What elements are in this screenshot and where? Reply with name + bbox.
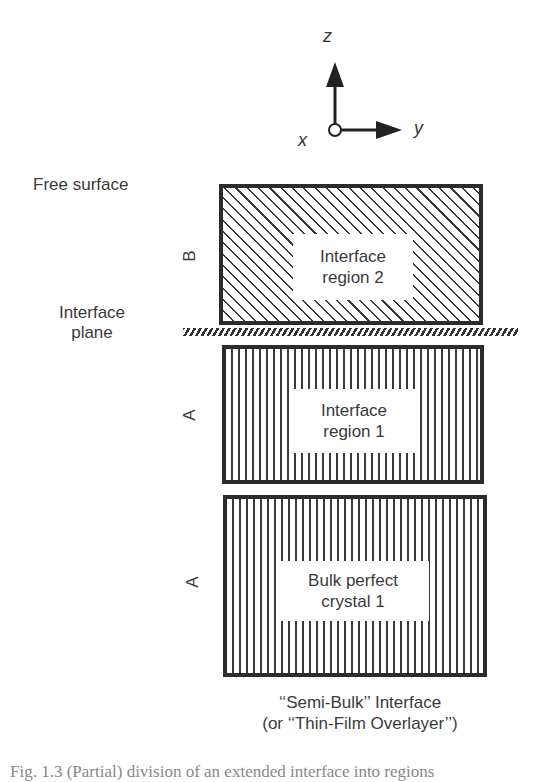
caption-line1: ‘‘Semi-Bulk’’ Interface [230, 692, 490, 713]
axes-arrows-icon [300, 55, 420, 145]
interface-region-1-label: Interface region 1 [293, 389, 415, 453]
x-axis-label: x [298, 130, 307, 151]
diagram-caption: ‘‘Semi-Bulk’’ Interface (or ‘‘Thin-Film … [230, 692, 490, 734]
region-1-line1: Interface [321, 400, 387, 421]
region-2-line1: Interface [320, 246, 386, 267]
bulk-line1: Bulk perfect [308, 570, 398, 591]
bulk-crystal-box: Bulk perfect crystal 1 [223, 495, 487, 677]
interface-plane-line2: plane [44, 323, 140, 343]
interface-plane-label: Interface plane [44, 303, 140, 343]
caption-line2: (or ‘‘Thin-Film Overlayer’’) [230, 713, 490, 734]
y-axis-label: y [414, 118, 423, 139]
region-1-side-label: A [180, 405, 200, 425]
interface-region-2-box: Interface region 2 [219, 184, 483, 325]
z-axis-label: z [323, 26, 332, 47]
bulk-crystal-label: Bulk perfect crystal 1 [277, 561, 429, 621]
interface-region-2-label: Interface region 2 [293, 234, 413, 300]
region-1-line2: region 1 [321, 421, 387, 442]
free-surface-label: Free surface [33, 175, 128, 195]
bulk-side-label: A [183, 572, 203, 592]
region-2-line2: region 2 [320, 267, 386, 288]
region-2-side-label: B [180, 246, 200, 266]
interface-plane-strip [183, 328, 518, 336]
interface-region-1-box: Interface region 1 [222, 345, 484, 484]
interface-plane-line1: Interface [44, 303, 140, 323]
figure-caption-partial: Fig. 1.3 (Partial) division of an extend… [10, 762, 434, 782]
bulk-line2: crystal 1 [308, 591, 398, 612]
